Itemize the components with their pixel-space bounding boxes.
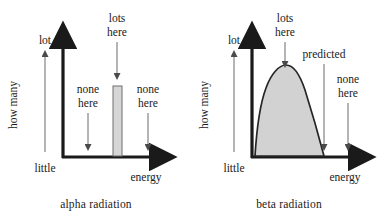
alpha-none-here-right-line2: here	[138, 97, 158, 109]
beta-lots-here-line2: here	[275, 26, 295, 38]
alpha-annotation-none-here-right: none here	[137, 83, 159, 145]
alpha-x-axis-title: energy	[130, 171, 161, 184]
alpha-none-here-left-line2: here	[78, 97, 98, 109]
alpha-y-bottom-label: little	[34, 162, 55, 174]
beta-y-bottom-label: little	[223, 162, 244, 174]
beta-none-here-line2: here	[338, 87, 358, 99]
beta-y-top-label: lot	[228, 34, 241, 46]
alpha-none-here-right-line1: none	[137, 83, 159, 95]
alpha-none-here-left-line1: none	[77, 83, 99, 95]
beta-caption: beta radiation	[193, 198, 385, 211]
alpha-caption: alpha radiation	[0, 198, 192, 211]
beta-annotation-lots-here: lots here	[275, 12, 295, 62]
beta-predicted-label: predicted	[303, 48, 346, 61]
beta-none-here-line1: none	[337, 73, 359, 85]
alpha-chart-svg: little lot how many energy lots here non…	[0, 0, 192, 198]
alpha-annotation-none-here-left: none here	[77, 83, 99, 145]
panel-alpha-radiation: little lot how many energy lots here non…	[0, 0, 192, 222]
panel-beta-radiation: little lot how many energy lots here pre…	[193, 0, 385, 222]
beta-x-axis-title: energy	[329, 171, 360, 184]
beta-y-axis-title: how many	[198, 81, 211, 129]
beta-chart-svg: little lot how many energy lots here pre…	[193, 0, 385, 198]
alpha-lots-here-line1: lots	[109, 12, 126, 24]
beta-spectrum-curve	[255, 65, 324, 156]
beta-annotation-none-here: none here	[337, 73, 359, 145]
alpha-annotation-lots-here: lots here	[107, 12, 127, 74]
alpha-spectrum-bar	[113, 86, 122, 156]
alpha-lots-here-line2: here	[107, 26, 127, 38]
radiation-spectra-figure: little lot how many energy lots here non…	[0, 0, 385, 222]
alpha-y-axis-title: how many	[7, 81, 20, 129]
alpha-y-top-label: lot	[39, 34, 52, 46]
beta-lots-here-line1: lots	[277, 12, 294, 24]
